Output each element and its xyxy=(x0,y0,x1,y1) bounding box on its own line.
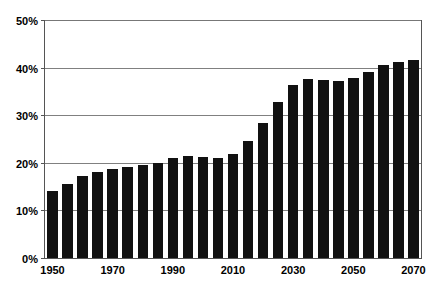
bar-1990 xyxy=(168,158,179,258)
y-tick-label: 10% xyxy=(16,205,38,217)
bar-1955 xyxy=(62,184,73,258)
chart-canvas: 0%10%20%30%40%50% 1950197019902010203020… xyxy=(0,0,448,297)
bar-2050 xyxy=(348,78,359,258)
y-tick-label: 30% xyxy=(16,110,38,122)
x-tick-label-1970: 1970 xyxy=(100,264,124,276)
bar-2045 xyxy=(333,81,344,258)
bar-2005 xyxy=(213,158,224,258)
bar-2040 xyxy=(318,80,329,259)
bar-chart-figure: 0%10%20%30%40%50% 1950197019902010203020… xyxy=(0,0,448,297)
bar-1980 xyxy=(138,165,149,258)
y-tick-label: 50% xyxy=(16,15,38,27)
bar-2070 xyxy=(408,60,419,258)
x-tick-label-2050: 2050 xyxy=(341,264,365,276)
x-tick-label-1990: 1990 xyxy=(161,264,185,276)
y-tick-label: 40% xyxy=(16,63,38,75)
bar-1975 xyxy=(122,167,133,258)
bar-1965 xyxy=(92,172,103,258)
bar-1985 xyxy=(153,163,164,258)
bar-2065 xyxy=(393,62,404,258)
bar-1950 xyxy=(47,191,58,258)
bar-2025 xyxy=(273,102,284,258)
bar-2015 xyxy=(243,141,254,258)
bar-2035 xyxy=(303,79,314,258)
bar-2060 xyxy=(378,65,389,258)
x-tick-label-2030: 2030 xyxy=(281,264,305,276)
bar-1960 xyxy=(77,176,88,258)
bar-2000 xyxy=(198,157,209,258)
x-tick-label-2070: 2070 xyxy=(401,264,425,276)
bar-1970 xyxy=(107,169,118,258)
bar-2020 xyxy=(258,123,269,258)
y-tick-label: 20% xyxy=(16,158,38,170)
bar-2010 xyxy=(228,154,239,258)
bar-2055 xyxy=(363,72,374,258)
bar-2030 xyxy=(288,85,299,258)
x-tick-label-2010: 2010 xyxy=(221,264,245,276)
x-tick-label-1950: 1950 xyxy=(40,264,64,276)
y-tick-label: 0% xyxy=(22,253,38,265)
bar-1995 xyxy=(183,156,194,258)
